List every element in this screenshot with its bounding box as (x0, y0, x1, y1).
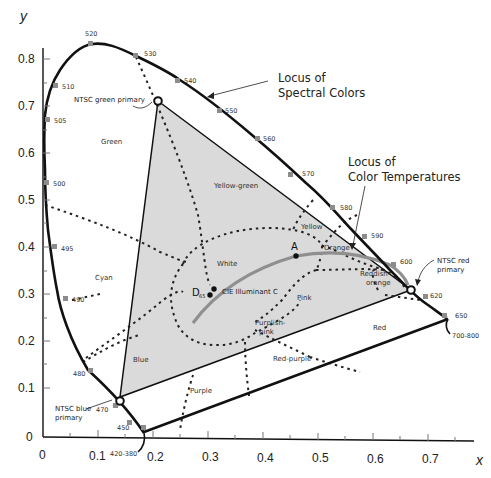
chromaticity-diagram: 420-380 450 470 480 490 495 500 505 510 … (0, 0, 491, 478)
svg-text:Blue: Blue (133, 356, 149, 364)
ntsc-green-primary-marker (154, 97, 162, 105)
svg-text:0: 0 (39, 448, 46, 462)
svg-text:470: 470 (96, 406, 108, 414)
svg-text:0.1: 0.1 (89, 449, 106, 463)
ntsc-blue-primary-marker (116, 397, 124, 405)
svg-text:Red: Red (373, 324, 386, 332)
svg-text:0.4: 0.4 (257, 451, 274, 465)
svg-text:0.1: 0.1 (18, 381, 35, 395)
svg-text:650: 650 (455, 312, 467, 320)
y-axis-title: y (19, 8, 28, 24)
svg-text:420-380: 420-380 (110, 450, 137, 458)
x-axis-title: x (475, 452, 484, 468)
svg-text:White: White (217, 260, 237, 268)
svg-text:540: 540 (184, 77, 196, 85)
svg-text:0.2: 0.2 (18, 334, 35, 348)
svg-text:pink: pink (259, 328, 275, 336)
svg-text:Spectral Colors: Spectral Colors (278, 86, 365, 100)
svg-text:0: 0 (26, 430, 33, 444)
svg-text:Purple: Purple (190, 387, 212, 395)
svg-text:NTSC red: NTSC red (437, 257, 470, 265)
svg-text:500: 500 (53, 180, 65, 188)
svg-text:0.6: 0.6 (18, 146, 35, 160)
svg-text:primary: primary (55, 414, 82, 422)
ntsc-red-primary-marker (407, 286, 415, 294)
svg-text:560: 560 (263, 135, 275, 143)
svg-text:Locus of: Locus of (278, 71, 327, 85)
svg-text:580: 580 (340, 204, 352, 212)
svg-text:0.5: 0.5 (312, 451, 329, 465)
svg-text:590: 590 (371, 232, 383, 240)
end-hook-red (446, 319, 450, 334)
svg-text:Locus of: Locus of (348, 155, 397, 169)
svg-text:510: 510 (62, 83, 74, 91)
svg-text:orange: orange (366, 279, 391, 287)
svg-text:NTSC blue: NTSC blue (55, 405, 91, 413)
svg-text:Purplish-: Purplish- (255, 319, 286, 327)
svg-text:0.4: 0.4 (18, 240, 35, 254)
svg-text:Green: Green (101, 138, 122, 146)
svg-text:0.2: 0.2 (147, 450, 164, 464)
svg-text:520: 520 (85, 30, 97, 38)
svg-text:NTSC green primary: NTSC green primary (74, 96, 145, 104)
svg-text:Pink: Pink (297, 294, 312, 302)
x-axis-labels: 0 0.1 0.2 0.3 0.4 0.5 0.6 0.7 x (39, 448, 484, 468)
svg-text:0.8: 0.8 (18, 52, 35, 66)
svg-text:0.7: 0.7 (18, 99, 35, 113)
svg-text:A: A (291, 241, 298, 252)
svg-text:0.3: 0.3 (18, 287, 35, 301)
svg-text:490: 490 (72, 296, 84, 304)
illuminant-c-point (211, 286, 216, 291)
svg-text:Red-purple: Red-purple (273, 355, 311, 363)
svg-text:Yellow: Yellow (300, 223, 323, 231)
svg-text:700-800: 700-800 (452, 332, 479, 340)
svg-text:Yellow-green: Yellow-green (213, 182, 258, 190)
svg-text:0.7: 0.7 (422, 452, 439, 466)
svg-text:Color Temperatures: Color Temperatures (348, 170, 461, 184)
d65-point (207, 292, 212, 297)
svg-text:550: 550 (225, 107, 237, 115)
svg-text:Orange: Orange (324, 244, 350, 252)
svg-text:480: 480 (73, 370, 85, 378)
svg-text:600: 600 (400, 258, 412, 266)
svg-text:495: 495 (61, 245, 73, 253)
svg-text:570: 570 (302, 170, 314, 178)
svg-text:CIE Illuminant C: CIE Illuminant C (222, 288, 278, 296)
svg-text:Cyan: Cyan (95, 274, 113, 282)
svg-text:505: 505 (54, 117, 66, 125)
y-axis-labels: 0 0.1 0.2 0.3 0.4 0.5 0.6 0.7 0.8 y (18, 8, 35, 444)
svg-text:0.3: 0.3 (202, 450, 219, 464)
svg-text:530: 530 (144, 50, 156, 58)
svg-text:Reddish-: Reddish- (360, 270, 391, 278)
svg-text:0.5: 0.5 (18, 193, 35, 207)
svg-text:620: 620 (430, 292, 442, 300)
illuminant-a-point (293, 253, 298, 258)
svg-text:primary: primary (437, 266, 464, 274)
svg-text:0.6: 0.6 (367, 452, 384, 466)
end-hook-violet (138, 433, 145, 452)
svg-text:65: 65 (199, 293, 205, 299)
svg-text:450: 450 (117, 424, 129, 432)
